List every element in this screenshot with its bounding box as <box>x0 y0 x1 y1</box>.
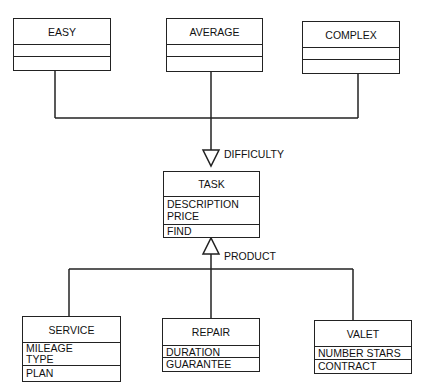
class-average-operations <box>167 57 262 70</box>
class-valet-operation: CONTRACT <box>318 360 411 373</box>
class-service-operation: PLAN <box>26 366 120 380</box>
class-average-attributes <box>167 45 262 57</box>
class-repair-operation: GUARANTEE <box>166 358 259 371</box>
class-valet-name: VALET <box>315 321 411 347</box>
class-average-name: AVERAGE <box>167 19 262 45</box>
class-service-operations: PLAN <box>23 366 120 380</box>
class-valet-attribute: NUMBER STARS <box>318 347 411 359</box>
class-complex-attributes <box>303 48 399 60</box>
class-task: TASK DESCRIPTION PRICE FIND <box>163 171 260 238</box>
class-task-attribute: PRICE <box>167 210 259 222</box>
class-easy-attributes <box>14 45 110 57</box>
class-task-attributes: DESCRIPTION PRICE <box>164 197 259 225</box>
class-valet: VALET NUMBER STARS CONTRACT <box>314 320 412 374</box>
relation-label-product: PRODUCT <box>224 250 276 262</box>
relation-label-difficulty: DIFFICULTY <box>224 148 284 160</box>
class-average: AVERAGE <box>166 18 263 72</box>
class-complex-operations <box>303 60 399 72</box>
class-task-operations: FIND <box>164 225 259 237</box>
class-repair: REPAIR DURATION GUARANTEE <box>162 318 260 372</box>
class-valet-attributes: NUMBER STARS <box>315 347 411 360</box>
class-complex-name: COMPLEX <box>303 22 399 48</box>
class-complex: COMPLEX <box>302 21 400 74</box>
class-task-operation: FIND <box>167 225 259 237</box>
class-task-name: TASK <box>164 172 259 197</box>
class-service-name: SERVICE <box>23 317 120 343</box>
class-service-attribute: TYPE <box>26 354 120 365</box>
class-service-attributes: MILEAGE TYPE <box>23 343 120 366</box>
class-valet-operations: CONTRACT <box>315 360 411 373</box>
class-easy-name: EASY <box>14 19 110 45</box>
class-repair-attribute: DURATION <box>166 346 259 358</box>
class-easy: EASY <box>13 18 111 71</box>
class-easy-operations <box>14 57 110 69</box>
class-repair-name: REPAIR <box>163 319 259 346</box>
class-service: SERVICE MILEAGE TYPE PLAN <box>22 316 121 382</box>
class-repair-attributes: DURATION <box>163 346 259 358</box>
class-task-attribute: DESCRIPTION <box>167 198 259 210</box>
class-repair-operations: GUARANTEE <box>163 358 259 371</box>
